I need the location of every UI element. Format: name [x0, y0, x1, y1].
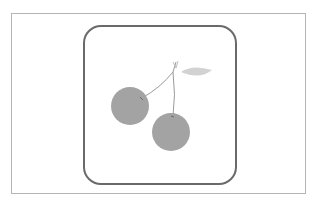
leaf-icon — [181, 67, 212, 75]
cherry-left — [111, 87, 149, 125]
cherry-icon — [0, 0, 322, 201]
stem-left — [142, 62, 176, 98]
cherry-right — [152, 113, 190, 151]
stem-right — [173, 72, 175, 116]
